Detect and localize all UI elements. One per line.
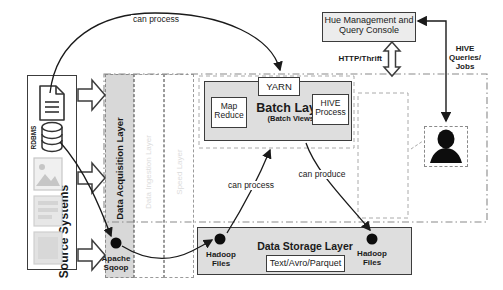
edge-can-process-bottom [227,150,270,233]
source-block-arrows [78,80,105,270]
edge-label-can-process-top: can process [131,15,181,24]
apache-sqoop-label: Apache Sqoop [96,255,136,273]
data-storage-layer-title: Data Storage Layer [250,241,360,253]
http-thrift-double-arrow-icon [384,42,400,76]
edge-can-produce [306,143,370,230]
hadoop-files-right-label: Hadoop Files [353,250,391,268]
edge-label-can-process-bottom: can process [227,181,275,190]
user-link-dashed-line [411,141,423,149]
right-section-dashed-rect [358,93,408,218]
rdbms-label: RDBMS [29,123,38,153]
yarn-label: YARN [258,82,300,92]
source-systems-title: Source Systems [58,184,71,280]
block-arrow-middle-icon [78,163,105,193]
faded-layer-label-1: Data Ingestion Layer [144,117,154,227]
user-box [424,126,468,167]
storage-formats-label: Text/Avro/Parquet [266,259,345,269]
hadoop-architecture-diagram: Source Systems RDBMS Data Acquisition La… [0,0,503,290]
faded-layer-label-2: Speed Layer [175,117,185,227]
map-reduce-label: Map Reduce [211,102,247,121]
data-acquisition-label: Data Acquisition Layer [114,109,125,229]
block-arrow-top-icon [78,80,105,110]
http-thrift-label: HTTP/Thrift [334,55,382,64]
hadoop-files-left-label: Hadoop Files [202,251,240,269]
edge-label-can-produce: can produce [296,170,348,179]
hive-queries-jobs-label: HIVE Queries/ Jobs [446,45,484,71]
hive-process-label: HIVE Process [312,99,349,118]
user-hue-connector [418,21,446,121]
hue-console-title: Hue Management and Query Console [324,16,414,36]
